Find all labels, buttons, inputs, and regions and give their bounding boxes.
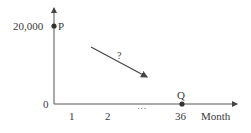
point-q-label: Q [177,89,185,101]
question-mark: ? [117,50,121,62]
point-p-label: P [58,20,64,32]
x-tick-2: 2 [105,110,111,122]
x-axis-title: Month [201,110,230,122]
x-tick-1: 1 [69,110,75,122]
point-q [179,101,184,106]
x-ellipsis: · · · [137,102,146,114]
y-label-20000: 20,000 [13,20,43,32]
origin-label: 0 [43,98,49,110]
x-tick-36: 36 [175,110,186,122]
point-p [51,23,56,28]
